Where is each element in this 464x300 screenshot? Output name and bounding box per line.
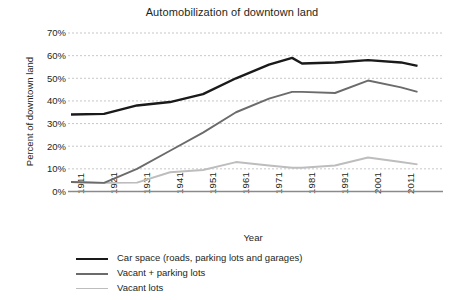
series-lines (71, 58, 418, 183)
legend-label: Vacant + parking lots (117, 267, 205, 278)
gridlines (68, 33, 443, 169)
legend-item-vacant-lots: Vacant lots (76, 280, 416, 295)
series-line (71, 158, 418, 183)
legend-swatch-car-space (76, 253, 108, 263)
legend-swatch-vacant-plus-parking (76, 268, 108, 278)
legend-swatch-vacant-lots (76, 283, 108, 293)
legend-label: Vacant lots (117, 282, 163, 293)
chart-figure: Automobilization of downtown land Percen… (0, 0, 464, 300)
series-line (71, 58, 418, 115)
legend-label: Car space (roads, parking lots and garag… (117, 252, 302, 263)
series-line (71, 81, 418, 183)
chart-legend: Car space (roads, parking lots and garag… (76, 250, 416, 295)
legend-item-vacant-plus-parking: Vacant + parking lots (76, 265, 416, 280)
legend-item-car-space: Car space (roads, parking lots and garag… (76, 250, 416, 265)
